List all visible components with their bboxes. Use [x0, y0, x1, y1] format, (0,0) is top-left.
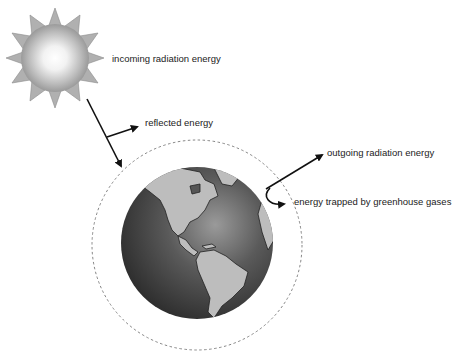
incoming-arrow — [87, 99, 121, 166]
earth-globe — [121, 166, 274, 319]
outgoing-radiation-label: outgoing radiation energy — [327, 147, 434, 158]
greenhouse-diagram — [0, 0, 457, 361]
reflected-arrow — [107, 127, 137, 137]
sun-icon — [6, 8, 104, 108]
incoming-radiation-label: incoming radiation energy — [112, 53, 221, 64]
trapped-arrow — [266, 188, 284, 204]
trapped-energy-label: energy trapped by greenhouse gases — [294, 196, 451, 207]
reflected-energy-label: reflected energy — [145, 117, 213, 128]
outgoing-arrow — [266, 155, 322, 189]
